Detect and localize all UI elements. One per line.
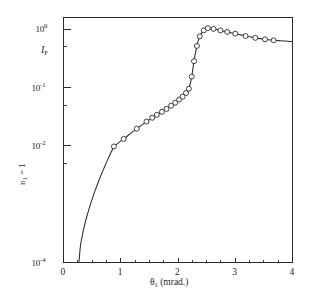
data-point: [205, 26, 210, 31]
y-inner-subscript: F: [44, 49, 48, 56]
figure-container: 01234 10010-110-210-4 θ1 (mrad.) IF n1 =…: [0, 0, 309, 298]
data-curve: [79, 28, 293, 262]
data-point-markers: [111, 26, 276, 149]
y-tick-mantissa: 10: [32, 258, 41, 268]
data-point: [192, 59, 197, 64]
data-point: [197, 34, 202, 39]
y-tick-mantissa: 10: [32, 141, 41, 151]
x-axis-symbol: θ: [150, 277, 155, 287]
y-tick-exponent: -4: [40, 256, 46, 263]
data-point: [164, 106, 169, 111]
data-point: [271, 38, 276, 43]
data-point: [134, 126, 139, 131]
y-tick-label: 10-2: [32, 139, 46, 151]
y-outer-equals: = 1: [17, 163, 27, 177]
y-axis-major-ticks: [64, 29, 71, 262]
y-tick-label: 10-1: [32, 81, 46, 93]
x-tick-label: 3: [232, 267, 237, 277]
y-tick-exponent: -2: [40, 139, 46, 146]
data-point: [263, 37, 268, 42]
x-axis-title: θ1 (mrad.): [150, 277, 188, 287]
data-point: [111, 144, 116, 149]
data-point: [144, 119, 149, 124]
data-point: [189, 74, 194, 79]
x-tick-label: 0: [61, 267, 66, 277]
y-tick-exponent: 0: [44, 22, 47, 29]
data-point: [154, 112, 159, 117]
data-point: [121, 136, 126, 141]
y-outer-symbol: n: [17, 181, 27, 186]
y-tick-mantissa: 10: [32, 83, 41, 93]
y-tick-exponent: -1: [40, 81, 46, 88]
x-axis-major-ticks: [64, 258, 293, 263]
y-tick-label: 100: [36, 22, 48, 34]
data-point: [253, 35, 258, 40]
data-point: [194, 43, 199, 48]
data-point: [211, 26, 216, 31]
data-point: [233, 31, 238, 36]
x-tick-label: 4: [290, 267, 295, 277]
data-point: [186, 86, 191, 91]
y-tick-label: 10-4: [32, 256, 46, 268]
x-tick-label: 1: [118, 267, 123, 277]
y-tick-mantissa: 10: [36, 24, 45, 34]
x-tick-label: 2: [175, 267, 180, 277]
data-point: [218, 28, 223, 33]
data-point: [159, 109, 164, 114]
data-point: [150, 115, 155, 120]
x-axis-subscript: 1: [155, 281, 158, 288]
y-axis-outer-title: n1 = 1: [17, 163, 27, 185]
data-point: [225, 29, 230, 34]
data-point: [243, 34, 248, 39]
y-axis-inner-title: IF: [41, 44, 48, 55]
x-axis-unit: (mrad.): [158, 277, 189, 287]
axis-frame: [64, 18, 293, 263]
